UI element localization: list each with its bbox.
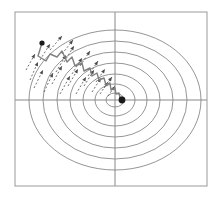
start-marker xyxy=(39,40,44,45)
figure-root xyxy=(0,0,221,199)
contour-plot-canvas xyxy=(0,0,221,199)
minimum-marker xyxy=(119,97,126,104)
